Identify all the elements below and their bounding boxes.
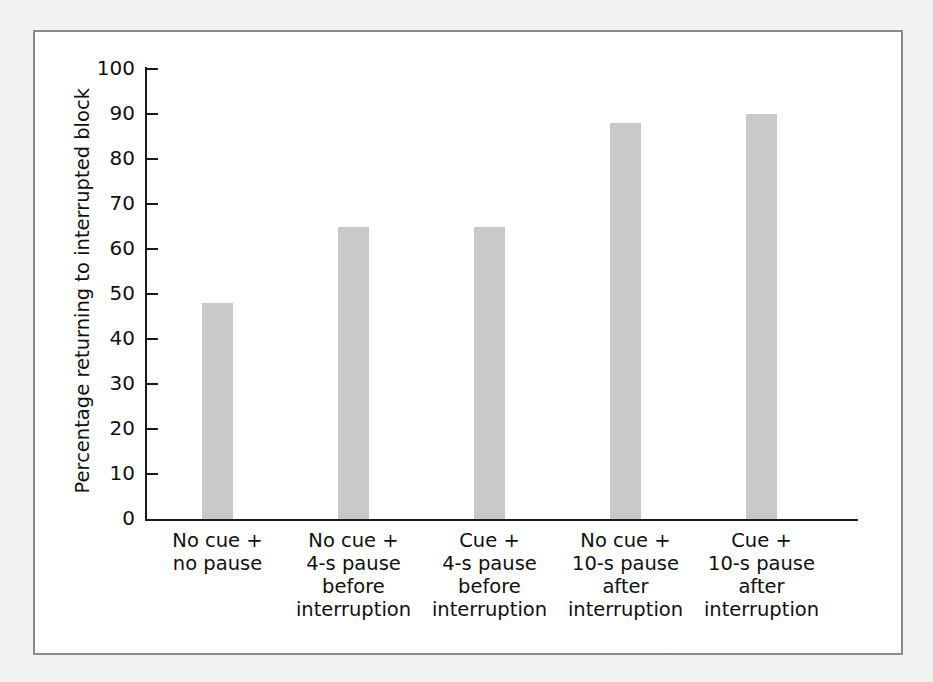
y-axis-tick — [147, 68, 158, 70]
y-axis-tick — [147, 428, 158, 430]
y-axis-tick-label-text: 80 — [93, 148, 135, 168]
bar — [202, 303, 233, 519]
y-axis-tick — [147, 293, 158, 295]
y-axis-tick-label-text: 40 — [93, 328, 135, 348]
x-axis-category-label: Cue +10-s pauseafterinterruption — [677, 529, 847, 621]
x-axis-category-label-line: 10-s pause — [677, 552, 847, 575]
bar — [746, 114, 777, 519]
y-axis-tick-label: 0 — [83, 508, 135, 528]
y-axis-tick-label-text: 30 — [93, 373, 135, 393]
y-axis-tick-label-text: 20 — [93, 418, 135, 438]
bar-chart-plot-area: 0102030405060708090100 Percentage return… — [35, 32, 901, 653]
y-axis-tick-label-text: 100 — [93, 58, 135, 78]
y-axis-tick — [147, 383, 158, 385]
x-axis-category-label-line: after — [677, 575, 847, 598]
bar — [338, 227, 369, 520]
bar — [610, 123, 641, 519]
y-axis-tick-label-text: 0 — [93, 508, 135, 528]
y-axis-tick — [147, 338, 158, 340]
scanned-page: 0102030405060708090100 Percentage return… — [0, 0, 933, 682]
x-axis-line — [145, 519, 858, 521]
y-axis-title: Percentage returning to interrupted bloc… — [71, 94, 94, 494]
y-axis-tick-label-text: 50 — [93, 283, 135, 303]
y-axis-tick-label: 100 — [83, 58, 135, 78]
y-axis-tick — [147, 158, 158, 160]
y-axis-tick — [147, 248, 158, 250]
y-axis-tick-label-text: 90 — [93, 103, 135, 123]
y-axis-tick — [147, 473, 158, 475]
y-axis-tick-label-text: 10 — [93, 463, 135, 483]
x-axis-category-label-line: Cue + — [677, 529, 847, 552]
x-axis-category-label-line: interruption — [677, 598, 847, 621]
y-axis-tick — [147, 113, 158, 115]
y-axis-tick-label-text: 60 — [93, 238, 135, 258]
y-axis-tick-label-text: 70 — [93, 193, 135, 213]
bar — [474, 227, 505, 520]
figure-frame: 0102030405060708090100 Percentage return… — [33, 30, 903, 655]
y-axis-tick — [147, 203, 158, 205]
